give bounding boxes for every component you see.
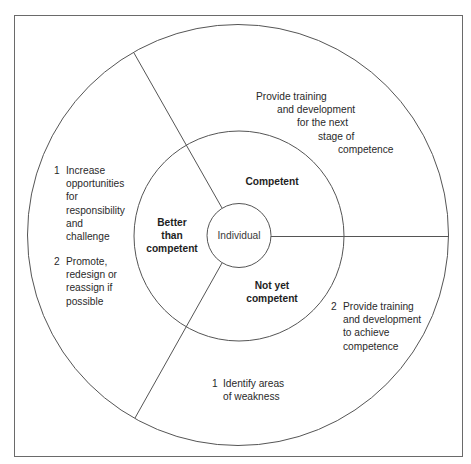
text-line: Promote, xyxy=(66,255,117,268)
diagram-canvas: Individual Competent Not yet competent B… xyxy=(0,0,471,464)
center-label-individual: Individual xyxy=(207,229,271,242)
text-line: and development xyxy=(343,313,421,326)
text-line: competence xyxy=(343,340,421,353)
list-item-1: 1 Identify areas of weakness xyxy=(212,377,273,403)
text-line: for xyxy=(66,190,125,203)
text-line: possible xyxy=(66,295,117,308)
text-line: redesign or xyxy=(66,268,117,281)
text-line: and development xyxy=(277,103,355,116)
label-line: than xyxy=(136,229,208,242)
item-number: 2 xyxy=(331,300,337,313)
text-line: Increase xyxy=(66,164,125,177)
segment-label-better-than-competent: Better than competent xyxy=(136,216,208,256)
label-line: competent xyxy=(136,242,208,255)
item-number: 1 xyxy=(212,377,218,390)
text-line: of weakness xyxy=(223,390,284,403)
label-line: Not yet xyxy=(236,279,308,292)
text-line: to achieve xyxy=(343,326,421,339)
text-line: Provide training xyxy=(343,300,421,313)
text-line: opportunities xyxy=(66,177,125,190)
text-line: responsibility xyxy=(66,204,125,217)
divider-lower-left xyxy=(135,263,222,418)
text-line: and xyxy=(66,217,125,230)
text-line: Identify areas xyxy=(223,377,284,390)
list-item-2: 2 Promote, redesign or reassign if possi… xyxy=(54,255,105,308)
text-line: Provide training xyxy=(256,90,327,103)
list-item-2: 2 Provide training and development to ac… xyxy=(331,300,409,353)
label-line: Better xyxy=(136,216,208,229)
text-line: reassign if xyxy=(66,281,117,294)
text-line: challenge xyxy=(66,230,125,243)
text-line: for the next xyxy=(297,116,348,129)
list-item-1: 1 Increase opportunities for responsibil… xyxy=(54,164,113,243)
segment-label-not-yet-competent: Not yet competent xyxy=(236,279,308,305)
segment-label-competent: Competent xyxy=(236,175,308,188)
label-line: competent xyxy=(236,292,308,305)
item-number: 2 xyxy=(54,255,60,268)
text-line: stage of xyxy=(318,130,354,143)
text-line: competence xyxy=(338,143,394,156)
item-number: 1 xyxy=(54,164,60,177)
